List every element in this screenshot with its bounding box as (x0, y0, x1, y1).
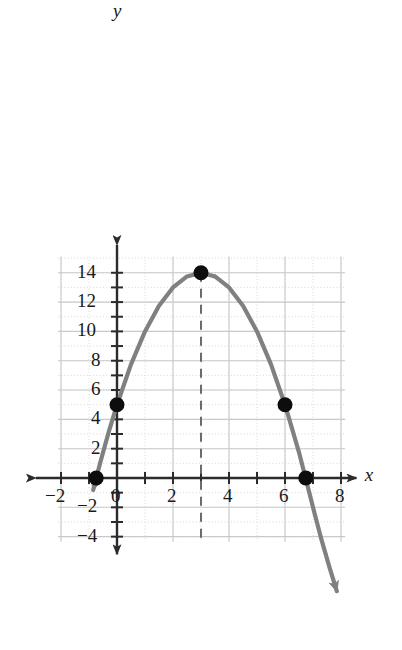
y-tick-label: 8 (91, 349, 101, 371)
plotted-point-left-x-intercept (89, 471, 104, 486)
plotted-point-vertex (194, 265, 209, 280)
y-tick-label: −2 (77, 495, 97, 517)
y-axis-label: y (113, 0, 121, 22)
plotted-point-y-intercept (110, 397, 125, 412)
y-tick-label: −4 (77, 525, 97, 547)
y-tick-label: 4 (91, 407, 101, 429)
x-tick-label: 2 (167, 485, 177, 507)
x-tick-label: −2 (45, 485, 65, 507)
curve-left-branch (93, 273, 215, 490)
x-tick-label: 4 (223, 485, 233, 507)
y-tick-label: 2 (91, 437, 101, 459)
parabola-curve (93, 273, 337, 591)
y-tick-label: 12 (77, 290, 96, 312)
x-tick-label: 0 (111, 485, 121, 507)
x-axis-label: x (365, 464, 373, 486)
plot-canvas (0, 0, 402, 650)
plotted-point-right-x-intercept (298, 471, 313, 486)
plotted-point-symmetric-point (278, 397, 293, 412)
y-tick-label: 14 (77, 261, 96, 283)
parabola-graph-figure: y x −202468 −4−22468101214 (0, 0, 402, 650)
y-tick-label: 10 (77, 319, 96, 341)
x-tick-label: 8 (335, 485, 345, 507)
y-tick-label: 6 (91, 378, 101, 400)
x-tick-label: 6 (279, 485, 289, 507)
